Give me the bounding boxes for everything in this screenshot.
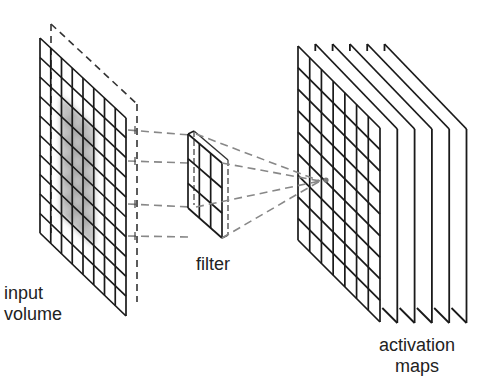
input-volume-label-line1: input [4,283,66,304]
activation-maps-label-line2: maps [372,356,462,377]
input-volume-grid [40,38,126,316]
input-volume-label-line2: volume [4,304,66,325]
cnn-convolution-diagram [0,0,490,386]
filter-label: filter [183,254,243,275]
activation-maps-label-line1: activation [372,335,462,356]
activation-maps-label: activation maps [372,335,462,377]
activation-map-front-grid [298,46,380,322]
output-neuron-dot [323,177,328,182]
filter-grid [188,131,228,238]
input-volume-label: input volume [4,283,66,325]
